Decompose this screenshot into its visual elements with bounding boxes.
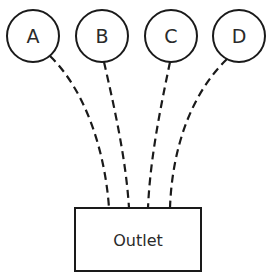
node-b: B [76, 10, 128, 62]
node-a-label: A [27, 25, 40, 47]
connector-c [148, 62, 170, 208]
connector-d [170, 59, 227, 208]
outlet-label: Outlet [113, 231, 163, 250]
diagram-canvas: A B C D Outlet [0, 0, 268, 273]
node-b-label: B [95, 25, 108, 47]
node-c: C [145, 10, 197, 62]
outlet-box: Outlet [75, 208, 201, 271]
connector-a [50, 56, 109, 208]
node-d-label: D [232, 25, 247, 47]
node-c-label: C [164, 25, 177, 47]
node-a: A [7, 10, 59, 62]
node-d: D [213, 10, 265, 62]
